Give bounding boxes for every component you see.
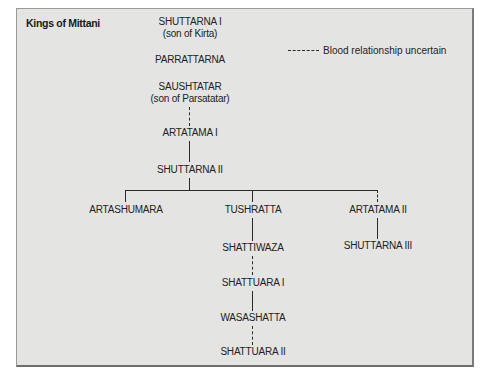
node-name: SHUTTARNA II <box>157 164 223 176</box>
node-name: SAUSHTATAR <box>150 81 229 93</box>
solid-connector <box>252 218 253 241</box>
solid-connector <box>189 141 190 162</box>
solid-connector <box>252 291 253 311</box>
node-shuttarna-i: SHUTTARNA I (son of Kirta) <box>158 16 221 40</box>
node-artatama-i: ARTATAMA I <box>162 127 217 139</box>
legend: Blood relationship uncertain <box>288 45 446 56</box>
node-name: ARTASHUMARA <box>89 204 163 216</box>
node-name: SHATTUARA II <box>220 346 285 358</box>
diagram-title: Kings of Mittani <box>26 17 100 29</box>
solid-connector <box>252 190 253 202</box>
node-wasashatta: WASASHATTA <box>220 312 285 324</box>
solid-connector <box>377 218 378 239</box>
dashed-connector <box>252 326 253 345</box>
node-parrattarna: PARRATTARNA <box>155 54 225 66</box>
node-name: SHATTUARA I <box>222 277 285 289</box>
node-name: ARTATAMA II <box>349 204 407 216</box>
node-artatama-ii: ARTATAMA II <box>349 204 407 216</box>
node-name: PARRATTARNA <box>155 54 225 66</box>
diagram-frame: Kings of Mittani Blood relationship unce… <box>16 8 474 367</box>
node-shattiwaza: SHATTIWAZA <box>222 242 283 254</box>
node-name: SHUTTARNA I <box>158 16 221 28</box>
node-artashumara: ARTASHUMARA <box>89 204 163 216</box>
node-note: (son of Kirta) <box>158 28 221 40</box>
dashed-line-legend-icon <box>288 50 319 51</box>
node-note: (son of Parsatatar) <box>150 93 229 105</box>
node-name: ARTATAMA I <box>162 127 217 139</box>
node-tushratta: TUSHRATTA <box>225 204 282 216</box>
node-name: TUSHRATTA <box>225 204 282 216</box>
dashed-connector <box>189 107 190 126</box>
node-name: WASASHATTA <box>220 312 285 324</box>
node-shuttarna-ii: SHUTTARNA II <box>157 164 223 176</box>
legend-label: Blood relationship uncertain <box>323 45 446 56</box>
node-shuttarna-iii: SHUTTARNA III <box>344 240 412 252</box>
dashed-connector <box>252 256 253 275</box>
dashed-connector <box>377 190 378 202</box>
node-name: SHUTTARNA III <box>344 240 412 252</box>
node-name: SHATTIWAZA <box>222 242 283 254</box>
node-shattuara-ii: SHATTUARA II <box>220 346 285 358</box>
node-shattuara-i: SHATTUARA I <box>222 277 285 289</box>
solid-connector <box>125 190 126 202</box>
node-saushtatar: SAUSHTATAR (son of Parsatatar) <box>150 81 229 105</box>
